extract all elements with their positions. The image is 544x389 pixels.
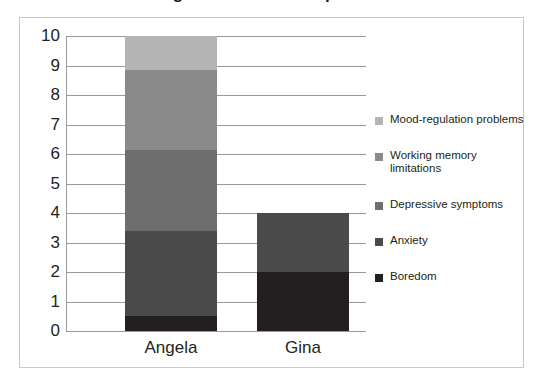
legend-label: Depressive symptoms [390,198,503,211]
y-axis-line [66,36,67,332]
legend-label: Mood-regulation problems [390,113,524,126]
legend-item: Anxiety [375,234,544,247]
y-axis-tick-label: 10 [20,26,60,46]
y-axis-tick-label: 7 [20,115,60,135]
bar-segment [125,70,217,150]
y-axis-tick-label: 8 [20,85,60,105]
y-axis-tick-label: 5 [20,174,60,194]
bar-segment [125,36,217,70]
bar-segment [257,272,349,331]
x-axis-tick-label: Gina [243,338,363,358]
legend-item: Working memory limitations [375,149,544,175]
chart-legend: Mood-regulation problemsWorking memory l… [375,113,544,306]
x-axis-tick-label: Angela [111,338,231,358]
y-axis-tick-label: 1 [20,292,60,312]
bar-stack [125,36,217,331]
legend-swatch-icon [375,274,383,282]
bar-segment [125,231,217,317]
y-axis-tick-label: 4 [20,203,60,223]
legend-swatch-icon [375,153,383,161]
bar-segment [125,316,217,331]
chart-title: Figure: Stacked comparison [0,0,544,4]
gridline [66,331,366,332]
legend-label: Boredom [390,270,437,283]
bar-stack [257,213,349,331]
legend-item: Mood-regulation problems [375,113,544,126]
chart-title-strip: Figure: Stacked comparison [0,0,544,16]
y-axis-tick-label: 2 [20,262,60,282]
plot-area: 012345678910 AngelaGina [66,36,366,331]
legend-swatch-icon [375,238,383,246]
y-axis-tick-label: 6 [20,144,60,164]
legend-swatch-icon [375,117,383,125]
chart-frame: 012345678910 AngelaGina Mood-regulation … [19,17,524,368]
legend-label: Anxiety [390,234,428,247]
bar-segment [125,150,217,231]
y-axis-tick-label: 0 [20,321,60,341]
legend-item: Boredom [375,270,544,283]
legend-item: Depressive symptoms [375,198,544,211]
legend-label: Working memory limitations [390,149,477,175]
bar-segment [257,213,349,272]
y-axis-tick-label: 3 [20,233,60,253]
y-axis-tick-label: 9 [20,56,60,76]
legend-swatch-icon [375,202,383,210]
